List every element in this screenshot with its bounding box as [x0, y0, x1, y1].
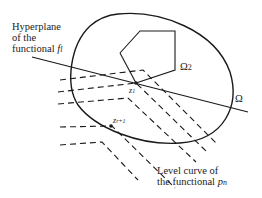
- omega2-label: Ω2: [180, 61, 192, 73]
- hyperplane-label: Hyperplane of the functional fl: [12, 21, 62, 55]
- level-curve-label: Level curve of the functional pn: [157, 165, 227, 188]
- omega2-side: [120, 53, 136, 83]
- zr1-label: zr+1: [113, 115, 126, 127]
- z1-label: z1: [129, 85, 135, 97]
- omega-label: Ω: [235, 93, 243, 104]
- hyperplane-line: [32, 57, 248, 112]
